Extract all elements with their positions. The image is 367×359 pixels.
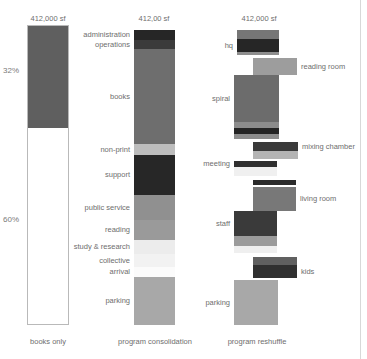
column-1-total-label: 412,000 sf — [14, 14, 82, 23]
segment-staff[interactable] — [234, 211, 277, 236]
segment-label-staff: staff — [186, 219, 230, 228]
segment-label-spiral: spiral — [186, 94, 230, 103]
segment-label-mixing-chamber: mixing chamber — [302, 142, 367, 151]
segment-label-hq: hq — [189, 41, 233, 50]
segment-hq[interactable] — [237, 30, 279, 39]
segment-arrival[interactable] — [134, 267, 175, 277]
segment-meeting-base[interactable] — [234, 167, 277, 176]
segment-parking[interactable] — [134, 277, 175, 325]
segment-support[interactable] — [134, 155, 175, 195]
segment-label-parking: parking — [186, 298, 230, 307]
column-3-total-label: 412,000 sf — [225, 14, 293, 23]
segment-label-kids: kids — [301, 267, 367, 276]
segment-staff-foot[interactable] — [234, 246, 277, 253]
segment-label-study-research: study & research — [58, 242, 130, 251]
segment-living-room[interactable] — [253, 187, 296, 211]
segment-label-collective: collective — [58, 256, 130, 265]
column-3-caption: program reshuffle — [212, 337, 302, 346]
segment-spiral-foot[interactable] — [234, 134, 279, 139]
segment-operations[interactable] — [134, 40, 175, 49]
segment-spiral[interactable] — [234, 75, 279, 122]
segment-hq-base[interactable] — [237, 52, 279, 55]
segment-public-service[interactable] — [134, 195, 175, 220]
segment-kids-top[interactable] — [253, 257, 297, 265]
segment-study-research[interactable] — [134, 240, 175, 254]
column-1-percent-top: 32% — [3, 66, 19, 75]
segment-label-public-service: public service — [58, 203, 130, 212]
segment-non-print[interactable] — [134, 144, 175, 155]
right-divider-rule — [360, 0, 361, 359]
segment-label-non-print: non-print — [58, 145, 130, 154]
segment-living-top[interactable] — [253, 180, 296, 185]
segment-reading-room[interactable] — [253, 58, 297, 75]
column-1-percent-bottom: 60% — [3, 215, 19, 224]
segment-reading[interactable] — [134, 220, 175, 240]
segment-label-living-room: living room — [300, 194, 367, 203]
segment-label-meeting: meeting — [186, 159, 230, 168]
segment-books[interactable] — [134, 49, 175, 144]
segment-hq-dark[interactable] — [237, 39, 279, 52]
segment-label-books: books — [58, 92, 130, 101]
segment-label-reading: reading — [58, 225, 130, 234]
chart-canvas: 412,000 sf 32% 60% books only 412,00 sf … — [0, 0, 367, 359]
column-2-total-label: 412,00 sf — [120, 14, 188, 23]
segment-label-support: support — [58, 170, 130, 179]
segment-label-arrival: arrival — [58, 267, 130, 276]
segment-label-parking: parking — [58, 296, 130, 305]
segment-kids[interactable] — [253, 265, 297, 278]
segment-administration[interactable] — [134, 30, 175, 40]
segment-staff-base[interactable] — [234, 236, 277, 246]
segment-parking[interactable] — [234, 280, 278, 325]
segment-mixing-base[interactable] — [253, 151, 298, 159]
segment-label-administration: administration — [58, 30, 130, 39]
segment-label-reading-room: reading room — [301, 62, 367, 71]
segment-mixing-chamber[interactable] — [253, 142, 298, 151]
column-2-caption: program consolidation — [110, 337, 200, 346]
segment-collective[interactable] — [134, 254, 175, 267]
segment-label-operations: operations — [58, 40, 130, 49]
column-1-caption: books only — [10, 337, 86, 346]
